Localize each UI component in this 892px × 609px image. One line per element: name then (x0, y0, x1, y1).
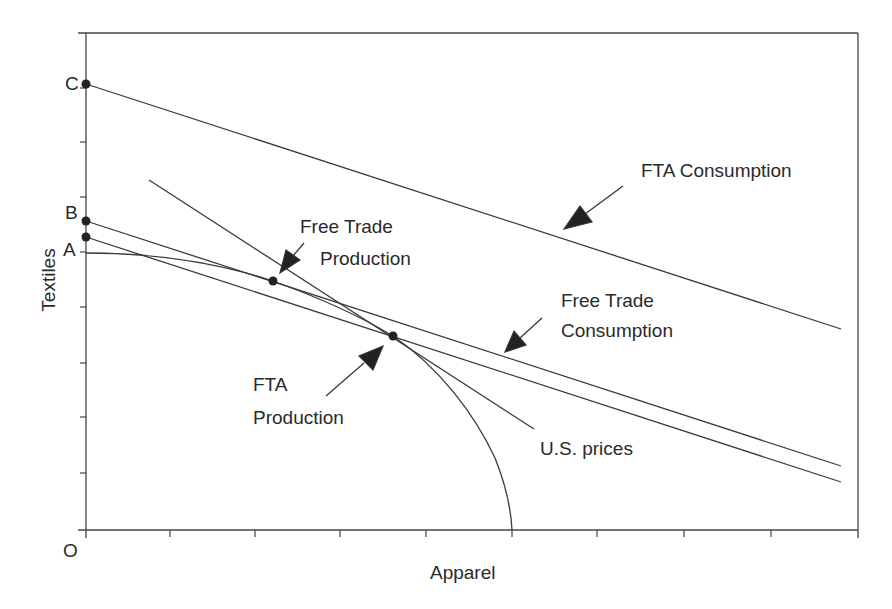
point-c-label: C (65, 74, 79, 94)
trade-diagram (0, 0, 892, 609)
point-a-label: A (63, 240, 76, 260)
fta-consumption-label: FTA Consumption (641, 160, 792, 182)
y-axis-label: Textiles (38, 240, 60, 320)
free-trade-production-arrow-icon (280, 243, 304, 273)
free-trade-consumption-line (86, 221, 841, 466)
fta-production-arrow-icon (326, 346, 383, 396)
free-trade-production-label-line1: Free Trade (300, 216, 393, 238)
point-c-marker (82, 80, 91, 89)
point-a-marker (82, 233, 91, 242)
x-axis-ticks (170, 530, 771, 537)
point-b-marker (82, 217, 91, 226)
fta-consumption-line (86, 84, 841, 329)
free-trade-consumption-label-line1: Free Trade (561, 290, 654, 312)
fta-production-label-line2: Production (253, 407, 344, 429)
free-trade-consumption-label-line2: Consumption (561, 320, 673, 342)
fta-production-marker (389, 332, 398, 341)
plot-frame (78, 33, 858, 538)
fta-production-label-line1: FTA (253, 374, 287, 396)
y-axis-ticks (80, 88, 86, 473)
production-possibility-frontier (86, 253, 512, 530)
fta-consumption-arrow-icon (564, 186, 623, 229)
point-b-label: B (65, 203, 78, 223)
free-trade-production-marker (269, 277, 278, 286)
free-trade-production-label-line2: Production (320, 248, 411, 270)
x-axis-label: Apparel (430, 562, 496, 584)
fta-production-value-line (86, 237, 841, 482)
free-trade-consumption-arrow-icon (505, 318, 542, 352)
origin-label: O (63, 541, 78, 561)
us-prices-label: U.S. prices (540, 438, 633, 460)
